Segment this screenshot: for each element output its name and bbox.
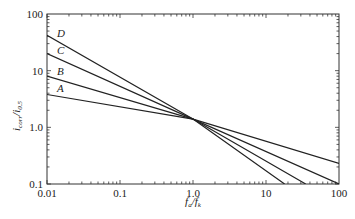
plot-frame xyxy=(47,14,339,184)
series-label-A: A xyxy=(56,82,64,94)
y-tick-labels: 100101.00.1 xyxy=(27,8,44,190)
series-label-B: B xyxy=(57,65,64,77)
log-log-chart: ABCD 0.010.11.010100 100101.00.1 fa/fk i… xyxy=(0,0,355,219)
x-tick-label: 100 xyxy=(331,187,348,199)
x-tick-label: 10 xyxy=(261,187,273,199)
y-tick-label: 0.1 xyxy=(29,178,43,190)
series-line-D xyxy=(47,35,285,184)
y-tick-label: 100 xyxy=(27,8,44,20)
series-label-D: D xyxy=(56,27,65,39)
y-axis-title: icorr/i0.5 xyxy=(10,101,24,132)
axis-ticks xyxy=(47,14,339,184)
series-line-A xyxy=(47,95,339,164)
series-lines xyxy=(47,35,339,184)
x-tick-label: 0.1 xyxy=(113,187,127,199)
y-tick-label: 10 xyxy=(32,65,44,77)
series-line-B xyxy=(47,76,339,184)
series-label-C: C xyxy=(57,44,65,56)
series-line-C xyxy=(47,54,306,184)
y-tick-label: 1.0 xyxy=(29,121,43,133)
